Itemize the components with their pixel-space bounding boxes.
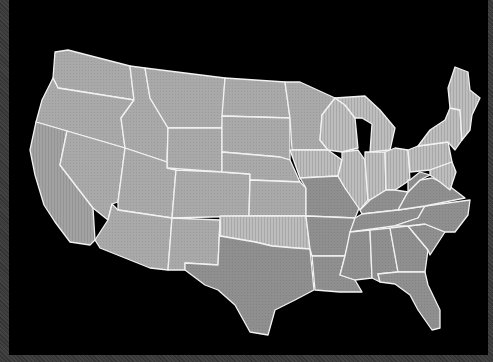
state-new-mexico[interactable] — [168, 218, 220, 270]
state-wyoming[interactable] — [167, 128, 222, 172]
state-ohio[interactable] — [385, 148, 410, 190]
state-kansas[interactable] — [249, 180, 306, 216]
us-choropleth-map — [0, 0, 493, 362]
state-colorado[interactable] — [172, 170, 250, 218]
state-iowa[interactable] — [290, 150, 342, 178]
state-new-york[interactable] — [418, 108, 462, 150]
state-north-dakota[interactable] — [222, 78, 290, 118]
state-florida[interactable] — [378, 272, 440, 330]
